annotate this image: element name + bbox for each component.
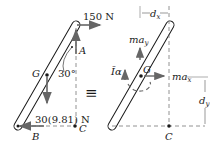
c-point [73, 124, 77, 128]
point-a-label: A [78, 45, 86, 56]
dx-label: dx [150, 8, 160, 21]
angle-label: 30° [58, 68, 76, 79]
kinetics-diagram: 150 N A 30° G 30(9.81) N B C ≡ [0, 0, 221, 148]
kinetic-diagram: dx may Īα G max dy C [110, 6, 210, 142]
equivalence-symbol: ≡ [85, 84, 98, 102]
ialpha-label: Īα [110, 66, 122, 77]
point-b-label: B [31, 131, 39, 142]
max-label: max [172, 71, 191, 84]
force-150n-label: 150 N [83, 11, 114, 22]
b-pin [17, 125, 20, 128]
c-point-right [167, 124, 171, 128]
point-c-label: C [79, 123, 87, 134]
may-label: may [129, 34, 149, 47]
dy-label: dy [199, 95, 210, 108]
point-c-label-right: C [165, 131, 173, 142]
g-point [45, 73, 49, 77]
point-g-label: G [32, 68, 40, 79]
free-body-diagram: 150 N A 30° G 30(9.81) N B C [17, 11, 115, 142]
point-g-label-right: G [143, 64, 151, 75]
